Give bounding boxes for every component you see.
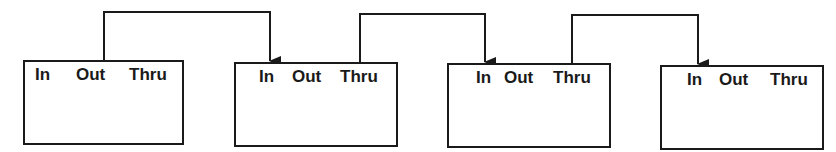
port-label-out: Out bbox=[719, 70, 748, 90]
device-box-4: In Out Thru bbox=[660, 65, 824, 150]
port-label-in: In bbox=[259, 67, 274, 87]
connection-arrow-2 bbox=[360, 14, 485, 62]
port-label-out: Out bbox=[504, 68, 533, 88]
device-box-3: In Out Thru bbox=[447, 63, 611, 148]
device-box-2: In Out Thru bbox=[234, 62, 398, 147]
port-label-out: Out bbox=[76, 65, 105, 85]
port-label-thru: Thru bbox=[553, 68, 591, 88]
connection-arrow-1 bbox=[104, 12, 270, 61]
port-label-in: In bbox=[687, 70, 702, 90]
port-label-out: Out bbox=[292, 67, 321, 87]
port-label-thru: Thru bbox=[770, 70, 808, 90]
port-label-thru: Thru bbox=[129, 65, 167, 85]
daisy-chain-diagram: In Out Thru In Out Thru In Out Thru In O… bbox=[0, 0, 836, 152]
device-box-1: In Out Thru bbox=[23, 60, 184, 145]
connection-arrow-3 bbox=[572, 15, 698, 64]
port-label-in: In bbox=[476, 68, 491, 88]
port-label-in: In bbox=[35, 65, 50, 85]
port-label-thru: Thru bbox=[340, 67, 378, 87]
